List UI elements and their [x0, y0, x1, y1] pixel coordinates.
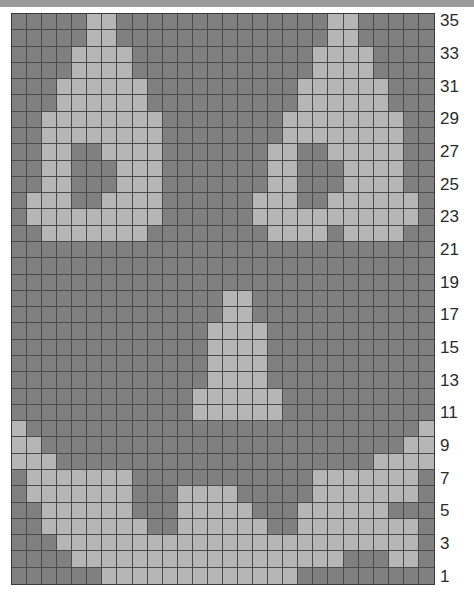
chart-cell-r6-c8[interactable]	[117, 486, 132, 502]
chart-cell-r28-c9[interactable]	[133, 128, 148, 144]
chart-cell-r9-c20[interactable]	[298, 437, 313, 453]
chart-cell-r3-c7[interactable]	[102, 535, 117, 551]
chart-cell-r23-c13[interactable]	[193, 209, 208, 225]
chart-cell-r32-c7[interactable]	[102, 63, 117, 79]
chart-cell-r28-c15[interactable]	[223, 128, 238, 144]
chart-cell-r27-c2[interactable]	[27, 144, 42, 160]
chart-cell-r18-c13[interactable]	[193, 291, 208, 307]
chart-cell-r1-c2[interactable]	[27, 568, 42, 584]
chart-cell-r14-c21[interactable]	[313, 356, 328, 372]
chart-cell-r35-c14[interactable]	[208, 14, 223, 30]
chart-cell-r18-c19[interactable]	[283, 291, 298, 307]
chart-cell-r10-c11[interactable]	[163, 421, 178, 437]
chart-cell-r2-c27[interactable]	[404, 551, 419, 567]
chart-cell-r11-c19[interactable]	[283, 405, 298, 421]
chart-cell-r26-c14[interactable]	[208, 161, 223, 177]
chart-cell-r9-c16[interactable]	[238, 437, 253, 453]
chart-cell-r14-c8[interactable]	[117, 356, 132, 372]
chart-cell-r5-c17[interactable]	[253, 503, 268, 519]
chart-cell-r7-c12[interactable]	[178, 470, 193, 486]
chart-cell-r1-c12[interactable]	[178, 568, 193, 584]
chart-cell-r6-c14[interactable]	[208, 486, 223, 502]
chart-cell-r19-c11[interactable]	[163, 275, 178, 291]
chart-cell-r14-c5[interactable]	[72, 356, 87, 372]
chart-cell-r9-c27[interactable]	[404, 437, 419, 453]
chart-cell-r3-c11[interactable]	[163, 535, 178, 551]
chart-cell-r32-c1[interactable]	[12, 63, 27, 79]
chart-cell-r5-c9[interactable]	[133, 503, 148, 519]
chart-cell-r13-c7[interactable]	[102, 372, 117, 388]
chart-cell-r18-c4[interactable]	[57, 291, 72, 307]
chart-cell-r22-c14[interactable]	[208, 226, 223, 242]
chart-cell-r10-c12[interactable]	[178, 421, 193, 437]
chart-cell-r10-c27[interactable]	[404, 421, 419, 437]
chart-cell-r2-c22[interactable]	[328, 551, 343, 567]
chart-cell-r28-c3[interactable]	[42, 128, 57, 144]
chart-cell-r24-c26[interactable]	[389, 193, 404, 209]
chart-cell-r2-c18[interactable]	[268, 551, 283, 567]
chart-cell-r35-c13[interactable]	[193, 14, 208, 30]
chart-cell-r3-c21[interactable]	[313, 535, 328, 551]
chart-cell-r35-c9[interactable]	[133, 14, 148, 30]
chart-cell-r30-c14[interactable]	[208, 95, 223, 111]
chart-cell-r9-c21[interactable]	[313, 437, 328, 453]
chart-cell-r16-c17[interactable]	[253, 323, 268, 339]
chart-cell-r20-c19[interactable]	[283, 258, 298, 274]
chart-cell-r24-c15[interactable]	[223, 193, 238, 209]
chart-cell-r9-c22[interactable]	[328, 437, 343, 453]
chart-cell-r23-c4[interactable]	[57, 209, 72, 225]
chart-cell-r8-c24[interactable]	[359, 454, 374, 470]
chart-cell-r26-c20[interactable]	[298, 161, 313, 177]
chart-cell-r4-c2[interactable]	[27, 519, 42, 535]
chart-cell-r4-c23[interactable]	[344, 519, 359, 535]
chart-cell-r33-c21[interactable]	[313, 47, 328, 63]
chart-cell-r18-c26[interactable]	[389, 291, 404, 307]
chart-cell-r19-c23[interactable]	[344, 275, 359, 291]
chart-cell-r12-c8[interactable]	[117, 389, 132, 405]
chart-cell-r1-c4[interactable]	[57, 568, 72, 584]
chart-cell-r21-c16[interactable]	[238, 242, 253, 258]
chart-cell-r10-c4[interactable]	[57, 421, 72, 437]
chart-cell-r6-c4[interactable]	[57, 486, 72, 502]
chart-cell-r7-c1[interactable]	[12, 470, 27, 486]
chart-cell-r9-c7[interactable]	[102, 437, 117, 453]
chart-cell-r30-c12[interactable]	[178, 95, 193, 111]
chart-cell-r14-c28[interactable]	[419, 356, 434, 372]
chart-cell-r22-c13[interactable]	[193, 226, 208, 242]
chart-cell-r3-c16[interactable]	[238, 535, 253, 551]
chart-cell-r5-c24[interactable]	[359, 503, 374, 519]
chart-cell-r16-c12[interactable]	[178, 323, 193, 339]
chart-cell-r34-c3[interactable]	[42, 30, 57, 46]
chart-cell-r15-c21[interactable]	[313, 340, 328, 356]
chart-cell-r4-c12[interactable]	[178, 519, 193, 535]
chart-cell-r16-c1[interactable]	[12, 323, 27, 339]
chart-cell-r30-c26[interactable]	[389, 95, 404, 111]
chart-cell-r21-c3[interactable]	[42, 242, 57, 258]
chart-cell-r34-c22[interactable]	[328, 30, 343, 46]
chart-cell-r34-c12[interactable]	[178, 30, 193, 46]
chart-cell-r30-c2[interactable]	[27, 95, 42, 111]
chart-cell-r29-c21[interactable]	[313, 112, 328, 128]
chart-cell-r17-c4[interactable]	[57, 307, 72, 323]
chart-cell-r25-c7[interactable]	[102, 177, 117, 193]
chart-cell-r14-c23[interactable]	[344, 356, 359, 372]
chart-cell-r15-c24[interactable]	[359, 340, 374, 356]
chart-cell-r28-c19[interactable]	[283, 128, 298, 144]
chart-cell-r34-c1[interactable]	[12, 30, 27, 46]
chart-cell-r9-c28[interactable]	[419, 437, 434, 453]
chart-cell-r23-c10[interactable]	[148, 209, 163, 225]
chart-cell-r25-c11[interactable]	[163, 177, 178, 193]
chart-cell-r13-c9[interactable]	[133, 372, 148, 388]
chart-cell-r9-c24[interactable]	[359, 437, 374, 453]
chart-cell-r27-c11[interactable]	[163, 144, 178, 160]
chart-cell-r29-c23[interactable]	[344, 112, 359, 128]
chart-cell-r11-c6[interactable]	[87, 405, 102, 421]
chart-cell-r33-c13[interactable]	[193, 47, 208, 63]
chart-cell-r13-c5[interactable]	[72, 372, 87, 388]
chart-cell-r32-c11[interactable]	[163, 63, 178, 79]
chart-cell-r1-c9[interactable]	[133, 568, 148, 584]
chart-cell-r2-c11[interactable]	[163, 551, 178, 567]
chart-cell-r7-c18[interactable]	[268, 470, 283, 486]
chart-cell-r30-c4[interactable]	[57, 95, 72, 111]
chart-cell-r7-c11[interactable]	[163, 470, 178, 486]
